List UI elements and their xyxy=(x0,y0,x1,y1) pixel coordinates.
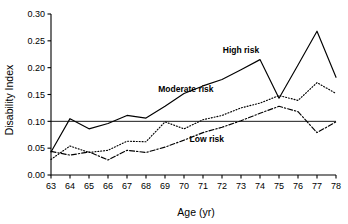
x-tick-label: 76 xyxy=(293,181,303,191)
x-tick-label: 64 xyxy=(65,181,75,191)
y-tick-label: 0.00 xyxy=(27,170,45,180)
x-tick-label: 69 xyxy=(160,181,170,191)
x-tick-label: 67 xyxy=(122,181,132,191)
x-tick-label: 70 xyxy=(179,181,189,191)
series-label-moderate-risk: Moderate risk xyxy=(158,84,214,94)
x-tick-label: 71 xyxy=(198,181,208,191)
y-tick-label: 0.15 xyxy=(27,90,45,100)
y-tick-label: 0.10 xyxy=(27,117,45,127)
series-label-high-risk: High risk xyxy=(223,45,260,55)
x-tick-label: 72 xyxy=(217,181,227,191)
x-axis-title: Age (yr) xyxy=(177,206,214,218)
y-tick-label: 0.05 xyxy=(27,143,45,153)
x-tick-label: 65 xyxy=(84,181,94,191)
disability-index-line-chart: 0.000.050.100.150.200.250.30636465666768… xyxy=(0,0,348,224)
y-tick-label: 0.30 xyxy=(27,9,45,19)
x-tick-label: 78 xyxy=(331,181,341,191)
x-tick-label: 66 xyxy=(103,181,113,191)
series-label-low-risk: Low risk xyxy=(190,134,225,144)
x-tick-label: 73 xyxy=(236,181,246,191)
x-tick-label: 68 xyxy=(141,181,151,191)
series-labels-group: High riskModerate riskLow risk xyxy=(158,45,259,144)
y-tick-label: 0.25 xyxy=(27,36,45,46)
x-tick-label: 74 xyxy=(255,181,265,191)
chart-figure: 0.000.050.100.150.200.250.30636465666768… xyxy=(0,0,348,224)
y-tick-label: 0.20 xyxy=(27,63,45,73)
y-axis-title: Disability Index xyxy=(3,64,15,135)
x-tick-label: 75 xyxy=(274,181,284,191)
x-tick-label: 63 xyxy=(46,181,56,191)
x-tick-label: 77 xyxy=(312,181,322,191)
axes-group xyxy=(48,14,337,179)
